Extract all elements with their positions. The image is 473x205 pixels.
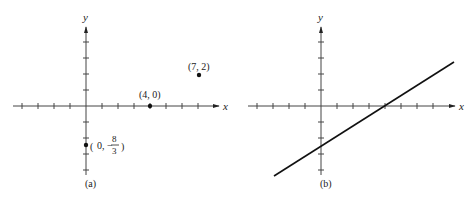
left-paren: (	[90, 141, 94, 153]
point-0-neg-8-3	[84, 143, 88, 147]
panel-a: x y (4, 0) (7, 2) ( 0, − 8 3 ) (a)	[13, 11, 228, 190]
right-paren: )	[121, 141, 124, 153]
panel-a-y-axis-label: y	[82, 11, 88, 23]
plotted-line	[274, 62, 454, 176]
fraction-denominator: 3	[112, 146, 117, 156]
panel-a-x-axis-label: x	[222, 100, 228, 112]
point-4-0	[148, 104, 152, 108]
point-label-4-0: (4, 0)	[139, 89, 161, 101]
label-prefix: 0, −	[97, 140, 113, 151]
panel-b: x y (b)	[248, 11, 464, 190]
figure: x y (4, 0) (7, 2) ( 0, − 8 3 ) (a)	[0, 0, 473, 205]
panel-b-x-axis-label: x	[458, 100, 464, 112]
point-label-0-neg-8-3: ( 0, − 8 3 )	[90, 134, 124, 156]
panel-a-caption: (a)	[85, 178, 96, 190]
fraction-numerator: 8	[112, 134, 117, 144]
point-7-2	[197, 73, 201, 77]
point-label-7-2: (7, 2)	[188, 61, 210, 73]
panel-b-caption: (b)	[320, 178, 332, 190]
panel-b-y-axis-label: y	[317, 11, 323, 23]
